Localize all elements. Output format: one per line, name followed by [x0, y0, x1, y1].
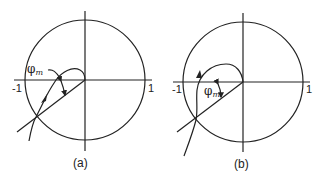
- panel-b: φm -1 1 (b): [172, 13, 312, 171]
- figure: φm -1 1 (a) φm -1 1 (b): [0, 0, 322, 182]
- phi-label: φm: [27, 62, 43, 77]
- panel-a: φm -1 1 (a): [12, 11, 154, 170]
- phi-label: φm: [204, 84, 220, 99]
- caption-b: (b): [234, 157, 249, 171]
- axis-label-neg1: -1: [172, 83, 182, 95]
- axis-label-neg1: -1: [12, 82, 22, 94]
- direction-arrow-icon: [196, 70, 202, 78]
- nyquist-curve: [184, 64, 243, 156]
- axis-label-pos1: 1: [148, 82, 154, 94]
- axis-label-pos1: 1: [306, 83, 312, 95]
- angle-arc: [61, 81, 65, 95]
- caption-a: (a): [73, 156, 88, 170]
